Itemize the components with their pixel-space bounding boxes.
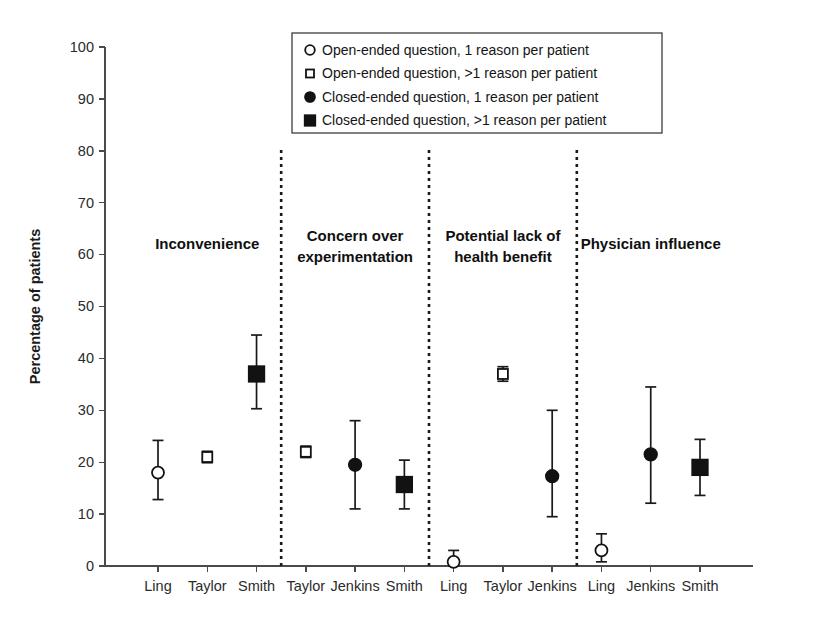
x-tick-label-9: Ling — [588, 578, 615, 594]
legend-marker-filled-circle — [305, 92, 315, 102]
datapoint-p2-jenkins-marker-filled-circle — [349, 458, 362, 471]
datapoint-p4-smith-marker-filled-square — [692, 459, 708, 475]
x-tick-label-2: Smith — [238, 578, 275, 594]
legend-marker-open-square — [306, 70, 314, 78]
legend-label-4: Closed-ended question, >1 reason per pat… — [322, 112, 607, 128]
legend-marker-open-circle — [305, 45, 315, 55]
panel-title-1-line-1: Inconvenience — [155, 235, 259, 252]
datapoint-p2-smith-marker-filled-square — [396, 477, 412, 493]
x-tick-label-1: Taylor — [188, 578, 227, 594]
legend-marker-filled-square — [305, 115, 316, 126]
y-tick-label-20: 20 — [78, 454, 94, 470]
panel-title-2-line-2: experimentation — [297, 248, 413, 265]
x-tick-label-5: Smith — [386, 578, 423, 594]
y-axis-title: Percentage of patients — [27, 229, 43, 385]
y-tick-label-60: 60 — [78, 246, 94, 262]
error-bar-chart: 0102030405060708090100Percentage of pati… — [0, 0, 823, 625]
y-tick-label-80: 80 — [78, 143, 94, 159]
x-tick-label-11: Smith — [681, 578, 718, 594]
x-tick-label-3: Taylor — [286, 578, 325, 594]
x-tick-label-6: Ling — [440, 578, 467, 594]
datapoint-p4-jenkins-marker-filled-circle — [644, 448, 657, 461]
datapoint-p3-jenkins-marker-filled-circle — [546, 470, 559, 483]
panel-title-3-line-2: health benefit — [454, 248, 552, 265]
chart-generated-layer: 0102030405060708090100Percentage of pati… — [27, 33, 753, 594]
datapoint-p3-taylor-marker-open-square — [498, 369, 508, 379]
y-tick-label-90: 90 — [78, 91, 94, 107]
datapoint-p3-ling-marker-open-circle — [448, 556, 460, 568]
y-tick-label-100: 100 — [70, 39, 94, 55]
datapoint-p4-ling-marker-open-circle — [595, 544, 607, 556]
y-tick-label-50: 50 — [78, 298, 94, 314]
x-tick-label-7: Taylor — [484, 578, 523, 594]
x-tick-label-0: Ling — [144, 578, 171, 594]
datapoint-p1-smith-marker-filled-square — [249, 366, 265, 382]
panel-title-2-line-1: Concern over — [307, 227, 404, 244]
x-tick-label-8: Jenkins — [528, 578, 577, 594]
panel-title-4-line-1: Physician influence — [581, 235, 721, 252]
datapoint-p1-taylor-marker-open-square — [202, 452, 212, 462]
y-tick-label-10: 10 — [78, 506, 94, 522]
datapoint-p1-ling-marker-open-circle — [152, 467, 164, 479]
x-tick-label-10: Jenkins — [626, 578, 675, 594]
legend-label-3: Closed-ended question, 1 reason per pati… — [322, 89, 598, 105]
y-tick-label-0: 0 — [86, 558, 94, 574]
legend-label-2: Open-ended question, >1 reason per patie… — [322, 65, 597, 81]
datapoint-p2-taylor-marker-open-square — [301, 447, 311, 457]
y-tick-label-40: 40 — [78, 350, 94, 366]
legend-label-1: Open-ended question, 1 reason per patien… — [322, 42, 589, 58]
figure-root: 0102030405060708090100Percentage of pati… — [0, 0, 823, 625]
x-tick-label-4: Jenkins — [331, 578, 380, 594]
y-tick-label-30: 30 — [78, 402, 94, 418]
panel-title-3-line-1: Potential lack of — [445, 227, 561, 244]
y-tick-label-70: 70 — [78, 195, 94, 211]
